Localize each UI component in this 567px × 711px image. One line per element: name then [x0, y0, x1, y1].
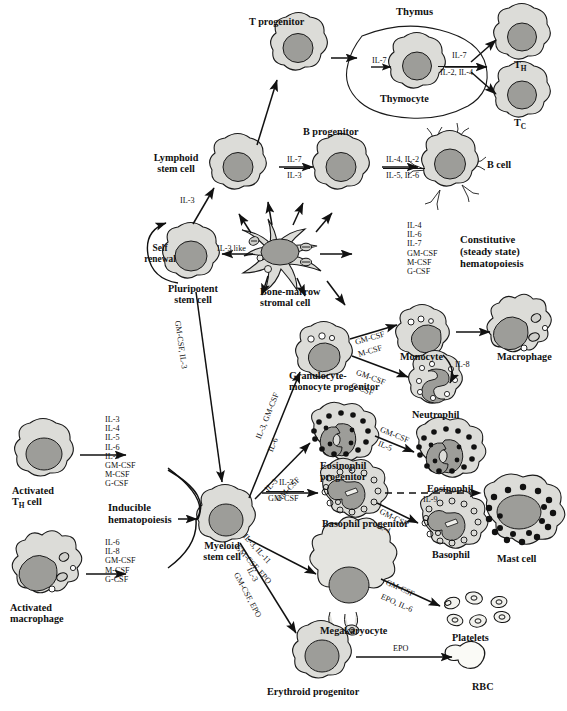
cell-bone-marrow-stromal: [242, 219, 321, 291]
cell-eosinophil: [416, 417, 486, 477]
label-t-progenitor: T progenitor: [249, 16, 304, 27]
label-lymphoid-stem: Lymphoid stem cell: [142, 152, 210, 175]
label-eosinophil-progenitor: Eosinophil progenitor: [320, 460, 366, 483]
cytokine-stromal-item: IL-4: [407, 221, 438, 230]
label-macrophage: Macrophage: [497, 351, 552, 362]
cytokine-th-item: IL-9: [105, 452, 136, 461]
cytokine-lymph-to-bprog-top: IL-7: [287, 155, 302, 164]
cytokine-mac-item: G-CSF: [105, 575, 136, 584]
cell-activated-th: [15, 419, 74, 477]
cell-gm-progenitor: [296, 322, 353, 378]
fraction-rule-lymph-bprog: [284, 168, 310, 169]
label-activated-macrophage: Activated macrophage: [10, 602, 64, 625]
fraction-rule-thymocyte: [438, 66, 486, 67]
label-self-renewal: Self renewal: [137, 243, 183, 264]
cytokine-mac-item: M-CSF: [105, 566, 136, 575]
cytokine-ery-to-rbc: EPO: [393, 644, 408, 653]
cell-mast: [484, 474, 565, 545]
cytokine-th-item: M-CSF: [105, 470, 136, 479]
label-monocyte: Monocyte: [400, 351, 443, 362]
label-pluripotent-stem: Pluripotent stem cell: [155, 283, 231, 306]
cytokine-myeloid-to-baso-bottom: GM-CSF: [268, 494, 299, 503]
cell-th: [494, 4, 551, 60]
label-rbc: RBC: [472, 681, 494, 692]
cell-activated-macrophage: [12, 531, 82, 593]
cell-platelets: [443, 591, 511, 629]
cytokine-il3-like: IL-3 like: [217, 244, 246, 253]
label-megakaryocyte: Megakaryocyte: [320, 625, 387, 636]
cytokine-baso-to-mast: IL-9: [423, 495, 438, 504]
hematopoiesis-diagram: T progenitor Thymus Thymocyte TH TC Lymp…: [0, 0, 567, 711]
cell-b-progenitor: [313, 134, 370, 190]
cytokine-to-lymphoid: IL-3: [180, 196, 195, 205]
cytokine-panel-stromal: IL-4IL-6IL-7GM-CSFM-CSFG-CSF: [407, 221, 438, 276]
cytokine-bprog-to-bcell-bottom: IL-5, IL-6: [386, 171, 419, 180]
cytokine-th-item: IL-4: [105, 424, 136, 433]
label-b-progenitor: B progenitor: [303, 126, 359, 137]
cytokine-th-item: IL-5: [105, 433, 136, 442]
cytokine-monocyte-to-neutrophil: IL-8: [455, 360, 470, 369]
label-activated-th: Activated TH cell: [12, 485, 54, 511]
cell-macrophage: [487, 294, 551, 352]
fraction-rule-bprog-bcell: [383, 168, 425, 169]
cytokine-stromal-item: G-CSF: [407, 267, 438, 276]
cytokine-stromal-item: GM-CSF: [407, 249, 438, 258]
label-inducible-hematopoiesis: Inducible hematopoiesis: [108, 502, 172, 526]
label-erythroid-progenitor: Erythroid progenitor: [267, 686, 359, 697]
cytokine-mac-item: IL-6: [105, 538, 136, 547]
cell-rbc: [445, 641, 485, 668]
cytokine-stromal-item: IL-6: [407, 230, 438, 239]
cytokine-lymph-to-bprog-bottom: IL-3: [287, 171, 302, 180]
cell-eosinophil-progenitor: [311, 402, 379, 461]
label-mast-cell: Mast cell: [497, 553, 536, 564]
label-thymocyte: Thymocyte: [380, 93, 429, 104]
cytokine-stromal-item: M-CSF: [407, 258, 438, 267]
label-b-cell: B cell: [487, 159, 511, 170]
cytokine-myeloid-to-baso-top: IL-3: [279, 478, 294, 487]
label-eosinophil: Eosinophil: [427, 483, 473, 494]
cytokine-panel-activated-th: IL-3IL-4IL-5IL-6IL-9GM-CSFM-CSFG-CSF: [105, 415, 136, 489]
cytokine-bprog-to-bcell-top: IL-4, IL-2: [386, 155, 419, 164]
cell-megakaryocyte: [310, 517, 397, 636]
label-neutrophil: Neutrophil: [412, 409, 459, 420]
cytokine-t-to-thymocyte: IL-7: [372, 56, 387, 65]
fraction-rule-myeloid-baso: [266, 491, 304, 492]
label-basophil: Basophil: [432, 549, 470, 560]
cytokine-mac-item: IL-8: [105, 547, 136, 556]
label-th: TH: [514, 59, 527, 73]
label-platelets: Platelets: [452, 632, 489, 643]
label-constitutive-hematopoiesis: Constitutive (steady state) hematopoiesi…: [460, 234, 524, 270]
cell-b-cell: [408, 123, 486, 210]
cytokine-thymocyte-out-bottom: IL-2, IL-4: [440, 68, 473, 77]
cell-monocyte: [396, 305, 450, 358]
cytokine-th-item: G-CSF: [105, 479, 136, 488]
cell-thymocyte: [389, 33, 446, 89]
cytokine-th-item: IL-3: [105, 415, 136, 424]
label-thymus: Thymus: [396, 6, 433, 18]
diagram-artwork: [0, 0, 567, 711]
cytokine-th-item: IL-6: [105, 443, 136, 452]
label-stromal-cell: Bone-marrow stromal cell: [260, 286, 320, 309]
cytokine-mac-item: GM-CSF: [105, 556, 136, 565]
cytokine-th-item: GM-CSF: [105, 461, 136, 470]
cytokine-thymocyte-out-top: IL-7: [452, 51, 467, 60]
cytokine-panel-activated-macrophage: IL-6IL-8GM-CSFM-CSFG-CSF: [105, 538, 136, 584]
cytokine-stromal-item: IL-7: [407, 239, 438, 248]
label-tc: TC: [514, 117, 526, 131]
